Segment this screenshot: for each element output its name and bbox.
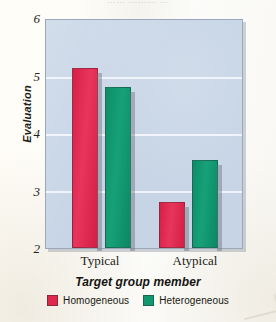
y-tick-3: 3 — [16, 184, 40, 200]
cutoff-header-text: …… ……… … — [0, 0, 276, 7]
bar-typical-homogeneous — [72, 68, 98, 248]
legend: Homogeneous Heterogeneous — [0, 295, 276, 306]
y-axis-title: Evaluation — [21, 69, 33, 159]
legend-item-homogeneous: Homogeneous — [47, 295, 129, 306]
x-tick-typical: Typical — [50, 253, 150, 269]
bar-atypical-heterogeneous — [192, 160, 218, 248]
bar-typical-heterogeneous — [105, 87, 131, 248]
legend-label-heterogeneous: Heterogeneous — [159, 295, 229, 306]
legend-item-heterogeneous: Heterogeneous — [143, 295, 229, 306]
legend-swatch-homogeneous-icon — [47, 295, 58, 306]
legend-swatch-heterogeneous-icon — [143, 295, 154, 306]
y-tick-6: 6 — [16, 11, 40, 27]
y-axis-tick-labels: 6 5 4 3 2 — [8, 0, 40, 322]
legend-label-homogeneous: Homogeneous — [63, 295, 129, 306]
x-tick-atypical: Atypical — [145, 253, 245, 269]
bar-atypical-homogeneous — [159, 202, 185, 248]
y-tick-2: 2 — [16, 241, 40, 257]
plot-area — [45, 19, 243, 249]
bar-series-group — [46, 20, 242, 248]
x-axis-title: Target group member — [0, 275, 276, 289]
